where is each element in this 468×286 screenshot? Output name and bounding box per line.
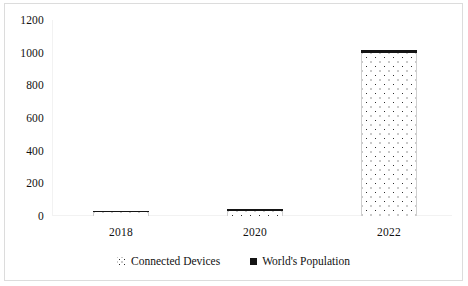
legend-label-connected-devices: Connected Devices <box>131 255 220 267</box>
bar-worlds-population-2018[interactable] <box>93 211 149 212</box>
bar-worlds-population-2022[interactable] <box>361 50 417 53</box>
legend-item-connected-devices[interactable]: Connected Devices <box>117 255 220 267</box>
legend-label-worlds-population: World's Population <box>262 255 350 267</box>
bar-worlds-population-2020[interactable] <box>227 209 283 211</box>
chart-figure: 1200 1000 800 600 400 200 0 2018 2020 20… <box>4 3 463 281</box>
chart-legend: Connected Devices World's Population <box>5 255 462 267</box>
y-axis-tick-800: 800 <box>26 79 44 91</box>
dotted-swatch-icon <box>117 257 126 266</box>
x-axis-label-2018: 2018 <box>93 226 149 238</box>
y-axis-tick-1200: 1200 <box>20 14 44 26</box>
x-axis-label-2022: 2022 <box>361 226 417 238</box>
y-axis-tick-1000: 1000 <box>20 47 44 59</box>
y-axis-tick-600: 600 <box>26 112 44 124</box>
x-axis-label-2020: 2020 <box>227 226 283 238</box>
y-axis-tick-200: 200 <box>26 177 44 189</box>
bar-connected-devices-2020[interactable] <box>227 211 283 216</box>
bar-connected-devices-2022[interactable] <box>361 53 417 216</box>
plot-area: 1200 1000 800 600 400 200 0 2018 2020 20… <box>52 20 452 216</box>
legend-item-worlds-population[interactable]: World's Population <box>250 255 350 267</box>
y-axis-tick-0: 0 <box>38 210 44 222</box>
solid-square-swatch-icon <box>250 258 257 265</box>
bar-connected-devices-2018[interactable] <box>93 212 149 216</box>
y-axis-tick-400: 400 <box>26 145 44 157</box>
